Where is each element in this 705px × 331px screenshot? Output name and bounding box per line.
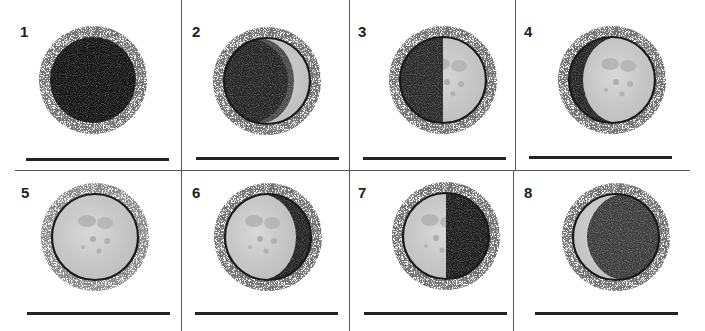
first-quarter-icon bbox=[388, 25, 498, 135]
answer-line-7[interactable] bbox=[364, 312, 507, 315]
panel-number: 7 bbox=[358, 184, 366, 201]
panel-8: 8 bbox=[514, 171, 705, 331]
answer-line-5[interactable] bbox=[27, 312, 170, 315]
panel-number: 2 bbox=[192, 23, 200, 40]
answer-line-4[interactable] bbox=[529, 156, 672, 159]
waning-crescent-icon bbox=[561, 182, 671, 292]
answer-line-8[interactable] bbox=[535, 312, 678, 315]
answer-line-2[interactable] bbox=[196, 157, 339, 160]
answer-line-1[interactable] bbox=[26, 158, 169, 161]
panel-3: 3 bbox=[350, 0, 515, 170]
panel-number: 4 bbox=[524, 23, 532, 40]
last-quarter-icon bbox=[391, 181, 501, 291]
waxing-gibbous-icon bbox=[557, 25, 667, 135]
waning-gibbous-icon bbox=[213, 182, 323, 292]
panel-1: 1 bbox=[0, 0, 181, 170]
panel-number: 3 bbox=[358, 23, 366, 40]
panel-number: 5 bbox=[21, 184, 29, 201]
panel-number: 1 bbox=[20, 23, 28, 40]
panel-5: 5 bbox=[0, 171, 181, 331]
panel-6: 6 bbox=[182, 171, 349, 331]
panel-7: 7 bbox=[350, 171, 513, 331]
panel-number: 6 bbox=[192, 184, 200, 201]
new-moon-icon bbox=[38, 25, 148, 135]
waxing-crescent-icon bbox=[212, 26, 322, 136]
answer-line-3[interactable] bbox=[363, 157, 506, 160]
panel-2: 2 bbox=[182, 0, 349, 170]
panel-4: 4 bbox=[516, 0, 705, 170]
moon-phase-worksheet: 1 2 3 bbox=[0, 0, 705, 331]
panel-number: 8 bbox=[524, 184, 532, 201]
full-moon-icon bbox=[40, 182, 150, 292]
answer-line-6[interactable] bbox=[195, 312, 338, 315]
